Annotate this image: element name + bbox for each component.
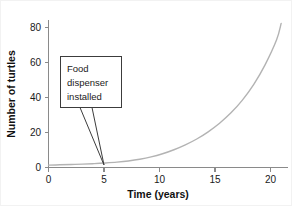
y-tick-label-40: 40: [30, 92, 42, 103]
figure-border: [1, 1, 292, 206]
callout-pointer: [80, 108, 104, 166]
y-tick-label-80: 80: [30, 22, 42, 33]
annotation-line-2: dispenser: [67, 77, 108, 88]
x-axis-title: Time (years): [127, 188, 189, 200]
y-tick-label-60: 60: [30, 57, 42, 68]
annotation-line-1: Food: [67, 63, 89, 74]
x-tick-label-0: 0: [46, 174, 52, 185]
chart-figure: 0 20 40 60 80 0 5 10 15 20 Time (years) …: [0, 0, 292, 206]
y-axis-title: Number of turtles: [5, 50, 17, 138]
y-tick-marks: [45, 28, 49, 168]
x-tick-label-10: 10: [154, 174, 166, 185]
y-tick-label-0: 0: [35, 162, 41, 173]
y-tick-label-20: 20: [30, 127, 42, 138]
x-tick-marks: [49, 168, 271, 172]
x-tick-label-20: 20: [265, 174, 277, 185]
x-tick-label-15: 15: [209, 174, 221, 185]
x-tick-label-5: 5: [101, 174, 107, 185]
annotation-line-3: installed: [67, 91, 102, 102]
chart-canvas: 0 20 40 60 80 0 5 10 15 20 Time (years) …: [0, 0, 292, 206]
